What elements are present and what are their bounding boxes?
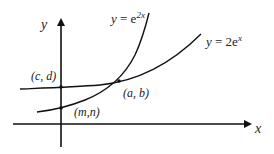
point-c-d xyxy=(59,85,63,89)
x-axis-label: x xyxy=(254,121,262,136)
y-axis-label: y xyxy=(39,17,48,32)
label-m-n: (m,n) xyxy=(74,105,100,119)
point-a-b xyxy=(117,79,121,83)
curve-label-2e-x: y = 2ex xyxy=(204,33,242,49)
label-a-b: (a, b) xyxy=(123,86,149,100)
diagram: y x y = e2x y = 2ex (c, d) (a, b) (m,n) xyxy=(0,0,274,154)
label-c-d: (c, d) xyxy=(31,69,56,83)
point-m-n xyxy=(59,106,63,110)
curve-label-e-2x: y = e2x xyxy=(109,10,145,26)
